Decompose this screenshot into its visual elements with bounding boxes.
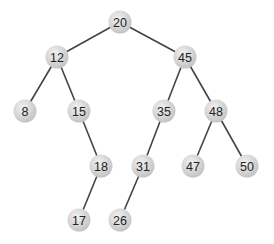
tree-node: 45 bbox=[174, 46, 197, 69]
node-label: 12 bbox=[50, 51, 64, 65]
node-label: 45 bbox=[178, 51, 192, 65]
binary-tree-diagram: 2012458153548183147501726 bbox=[0, 0, 274, 244]
tree-node: 50 bbox=[236, 155, 259, 178]
node-label: 50 bbox=[240, 160, 254, 174]
node-label: 31 bbox=[136, 160, 150, 174]
node-label: 8 bbox=[22, 105, 29, 119]
tree-node: 31 bbox=[132, 155, 155, 178]
node-label: 17 bbox=[72, 214, 86, 228]
tree-node: 26 bbox=[109, 209, 132, 232]
node-label: 18 bbox=[94, 160, 108, 174]
tree-node: 17 bbox=[68, 209, 91, 232]
tree-node: 12 bbox=[46, 46, 69, 69]
tree-node: 8 bbox=[14, 100, 37, 123]
tree-node: 47 bbox=[182, 155, 205, 178]
node-label: 26 bbox=[113, 214, 127, 228]
node-label: 48 bbox=[209, 105, 223, 119]
tree-node: 48 bbox=[205, 100, 228, 123]
node-label: 20 bbox=[113, 16, 127, 30]
tree-node: 35 bbox=[153, 100, 176, 123]
tree-node: 18 bbox=[90, 155, 113, 178]
node-label: 47 bbox=[186, 160, 200, 174]
tree-node: 15 bbox=[68, 100, 91, 123]
tree-node: 20 bbox=[109, 11, 132, 34]
node-label: 35 bbox=[157, 105, 171, 119]
node-label: 15 bbox=[72, 105, 86, 119]
